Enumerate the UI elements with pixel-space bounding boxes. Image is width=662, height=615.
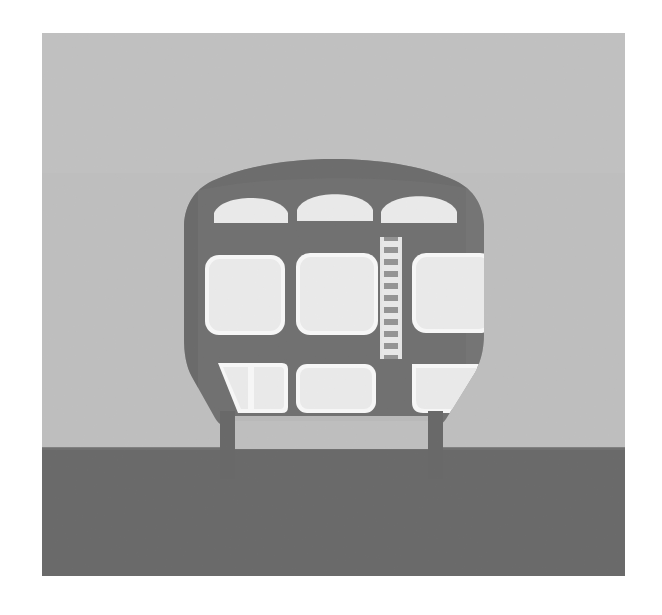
paper-grain-overlay bbox=[42, 33, 625, 576]
illustration-artboard bbox=[42, 33, 625, 576]
image-canvas: Grayscale illustration of the front of a… bbox=[0, 0, 662, 615]
train-illustration-svg bbox=[42, 33, 625, 576]
